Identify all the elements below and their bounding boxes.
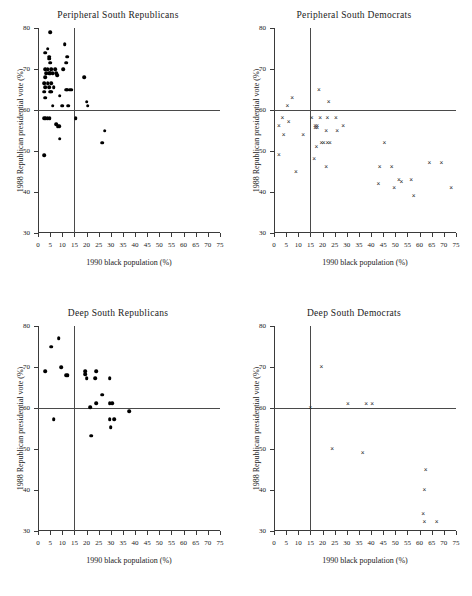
y-axis-line — [38, 28, 39, 233]
x-axis-tick-label: 0 — [36, 241, 40, 249]
y-axis-tick — [270, 28, 274, 29]
data-point: × — [325, 115, 329, 122]
data-point: × — [440, 160, 444, 167]
x-axis-tick-label: 20 — [83, 539, 90, 547]
data-point: × — [378, 164, 382, 171]
x-axis-tick-label: 60 — [416, 539, 423, 547]
reference-line-vertical — [310, 326, 311, 531]
reference-line-vertical — [74, 28, 75, 233]
x-axis-tick — [310, 233, 311, 237]
data-point — [50, 82, 54, 86]
data-point — [85, 100, 89, 104]
x-axis-tick — [208, 531, 209, 535]
data-point: × — [435, 519, 439, 526]
data-point: × — [335, 127, 339, 134]
y-axis-tick — [270, 367, 274, 368]
x-axis-tick-label: 25 — [331, 241, 338, 249]
data-point: × — [409, 176, 413, 183]
data-point — [58, 137, 62, 141]
x-axis-tick — [99, 531, 100, 535]
panel-peripheral-south-republicans: Peripheral South Republicans 05101520253… — [0, 0, 236, 298]
data-point — [94, 369, 98, 373]
x-axis-tick-label: 60 — [416, 241, 423, 249]
data-point — [48, 61, 52, 65]
x-axis-tick — [147, 233, 148, 237]
data-point — [67, 104, 71, 108]
x-axis-tick — [208, 233, 209, 237]
x-axis-tick-label: 55 — [168, 539, 175, 547]
data-point — [58, 125, 62, 129]
y-axis-tick — [34, 28, 38, 29]
x-axis-tick-label: 60 — [180, 241, 187, 249]
x-axis-tick — [62, 233, 63, 237]
x-axis-tick — [111, 233, 112, 237]
data-point: × — [399, 179, 403, 186]
y-axis-line — [38, 326, 39, 531]
x-axis-tick-label: 15 — [307, 241, 314, 249]
x-axis-tick — [371, 233, 372, 237]
x-axis-tick-label: 75 — [217, 241, 224, 249]
x-axis-label: 1990 black population (%) — [274, 556, 456, 565]
x-axis-tick — [274, 531, 275, 535]
x-axis-tick-label: 75 — [453, 241, 460, 249]
data-point — [52, 86, 56, 90]
x-axis-tick — [184, 531, 185, 535]
data-point: × — [319, 364, 323, 371]
x-axis-tick-label: 50 — [156, 539, 163, 547]
data-point — [101, 393, 105, 397]
x-axis-tick-label: 5 — [48, 241, 52, 249]
reference-line-horizontal — [38, 110, 220, 111]
data-point — [50, 345, 54, 349]
data-point — [43, 369, 47, 373]
data-point: × — [427, 160, 431, 167]
x-axis-tick — [74, 233, 75, 237]
x-axis-tick-label: 35 — [119, 539, 126, 547]
data-point — [60, 104, 64, 108]
reference-line-vertical — [310, 28, 311, 233]
x-axis-tick-label: 30 — [107, 241, 114, 249]
data-point: × — [412, 193, 416, 200]
x-axis-tick — [87, 531, 88, 535]
y-axis-tick — [34, 69, 38, 70]
data-point — [42, 153, 46, 157]
x-axis-tick — [123, 233, 124, 237]
x-axis-tick — [359, 531, 360, 535]
panel-deep-south-democrats: Deep South Democrats 0510152025303540455… — [236, 298, 472, 596]
plot-area: 0510152025303540455055606570753040506070… — [274, 326, 456, 531]
y-axis-tick — [34, 367, 38, 368]
data-point: × — [294, 168, 298, 175]
data-point — [52, 417, 56, 421]
x-axis-line — [274, 232, 456, 233]
x-axis-tick — [135, 233, 136, 237]
data-point: × — [370, 401, 374, 408]
x-axis-tick — [220, 531, 221, 535]
data-point: × — [361, 450, 365, 457]
x-axis-tick-label: 60 — [180, 539, 187, 547]
data-point: × — [364, 401, 368, 408]
x-axis-tick — [171, 531, 172, 535]
x-axis-tick-label: 35 — [355, 539, 362, 547]
data-point — [85, 376, 89, 380]
data-point: × — [310, 115, 314, 122]
x-axis-tick-label: 0 — [272, 241, 276, 249]
x-axis-tick-label: 40 — [132, 539, 139, 547]
data-point — [74, 116, 78, 120]
data-point: × — [421, 511, 425, 518]
reference-line-horizontal — [274, 408, 456, 409]
data-point — [127, 409, 131, 413]
data-point — [84, 372, 88, 376]
data-point: × — [287, 119, 291, 126]
y-axis-tick — [34, 490, 38, 491]
data-point: × — [308, 405, 312, 412]
data-point — [42, 90, 46, 94]
x-axis-tick-label: 70 — [204, 241, 211, 249]
x-axis-tick-label: 35 — [119, 241, 126, 249]
x-axis-tick-label: 75 — [453, 539, 460, 547]
x-axis-tick — [135, 531, 136, 535]
data-point — [110, 401, 114, 405]
data-point — [93, 377, 97, 381]
panel-title: Peripheral South Republicans — [0, 10, 236, 20]
data-point — [56, 73, 60, 77]
y-axis-line — [274, 28, 275, 233]
data-point: × — [334, 115, 338, 122]
